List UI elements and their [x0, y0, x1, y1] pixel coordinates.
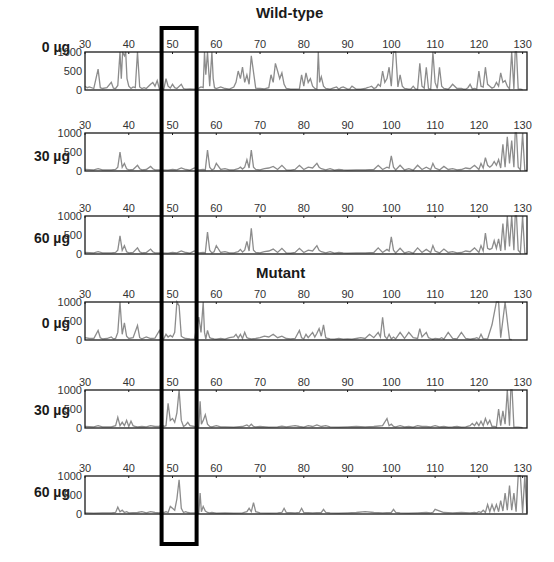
y-tick-label: 1000 — [58, 470, 82, 482]
x-tick-label: 100 — [382, 119, 400, 131]
trace-panel-3: 3040506070809010011012013005001000 — [58, 288, 532, 346]
x-tick-label: 120 — [470, 288, 488, 300]
x-tick-label: 110 — [426, 119, 444, 131]
y-tick-label: 1000 — [58, 46, 82, 58]
trace-panel-5: 3040506070809010011012013005001000 — [58, 462, 532, 520]
x-tick-label: 80 — [298, 202, 310, 214]
x-tick-label: 90 — [341, 38, 353, 50]
trace-line — [85, 302, 512, 340]
x-tick-label: 40 — [123, 462, 135, 474]
x-tick-label: 60 — [210, 376, 222, 388]
x-tick-label: 80 — [298, 288, 310, 300]
x-tick-label: 120 — [470, 119, 488, 131]
plot-frame — [85, 390, 527, 428]
x-tick-label: 50 — [166, 38, 178, 50]
x-tick-label: 80 — [298, 119, 310, 131]
x-tick-label: 70 — [254, 38, 266, 50]
x-tick-label: 90 — [341, 119, 353, 131]
x-tick-label: 80 — [298, 38, 310, 50]
x-tick-label: 130 — [513, 288, 531, 300]
x-tick-label: 80 — [298, 462, 310, 474]
y-tick-label: 0 — [76, 334, 82, 346]
x-tick-label: 70 — [254, 119, 266, 131]
y-tick-label: 0 — [76, 422, 82, 434]
trace-line — [85, 390, 523, 428]
plot-frame — [85, 476, 527, 514]
x-tick-label: 130 — [513, 462, 531, 474]
trace-panel-2: 3040506070809010011012013005001000 — [58, 202, 532, 260]
x-tick-label: 60 — [210, 202, 222, 214]
trace-panel-1: 3040506070809010011012013005001000 — [58, 119, 532, 177]
x-tick-label: 110 — [426, 462, 444, 474]
x-tick-label: 120 — [470, 38, 488, 50]
plots-canvas: 3040506070809010011012013005001000304050… — [0, 0, 554, 562]
plot-frame — [85, 133, 527, 171]
x-tick-label: 40 — [123, 376, 135, 388]
x-tick-label: 50 — [166, 119, 178, 131]
x-tick-label: 110 — [426, 202, 444, 214]
x-tick-label: 130 — [513, 376, 531, 388]
y-tick-label: 0 — [76, 84, 82, 96]
x-tick-label: 100 — [382, 288, 400, 300]
x-tick-label: 90 — [341, 288, 353, 300]
y-tick-label: 1000 — [58, 296, 82, 308]
trace-line — [85, 52, 523, 90]
y-tick-label: 1000 — [58, 210, 82, 222]
y-tick-label: 500 — [64, 403, 82, 415]
x-tick-label: 100 — [382, 462, 400, 474]
y-tick-label: 500 — [64, 315, 82, 327]
x-tick-label: 120 — [470, 462, 488, 474]
y-tick-label: 500 — [64, 146, 82, 158]
trace-panel-4: 3040506070809010011012013005001000 — [58, 376, 532, 434]
plot-frame — [85, 216, 527, 254]
x-tick-label: 80 — [298, 376, 310, 388]
x-tick-label: 90 — [341, 462, 353, 474]
x-tick-label: 130 — [513, 202, 531, 214]
x-tick-label: 60 — [210, 38, 222, 50]
x-tick-label: 70 — [254, 376, 266, 388]
x-tick-label: 90 — [341, 202, 353, 214]
x-tick-label: 50 — [166, 462, 178, 474]
trace-line — [85, 133, 527, 171]
x-tick-label: 110 — [426, 38, 444, 50]
x-tick-label: 120 — [470, 202, 488, 214]
figure: Wild-type Mutant 0 µg 30 µg 60 µg 0 µg 3… — [0, 0, 554, 562]
x-tick-label: 90 — [341, 376, 353, 388]
x-tick-label: 100 — [382, 38, 400, 50]
x-tick-label: 60 — [210, 288, 222, 300]
y-tick-label: 0 — [76, 508, 82, 520]
trace-line — [85, 476, 527, 513]
y-tick-label: 0 — [76, 165, 82, 177]
x-tick-label: 40 — [123, 38, 135, 50]
x-tick-label: 120 — [470, 376, 488, 388]
x-tick-label: 110 — [426, 288, 444, 300]
y-tick-label: 500 — [64, 65, 82, 77]
x-tick-label: 40 — [123, 119, 135, 131]
x-tick-label: 130 — [513, 38, 531, 50]
y-tick-label: 0 — [76, 248, 82, 260]
x-tick-label: 50 — [166, 376, 178, 388]
x-tick-label: 50 — [166, 202, 178, 214]
x-tick-label: 130 — [513, 119, 531, 131]
y-tick-label: 1000 — [58, 384, 82, 396]
x-tick-label: 50 — [166, 288, 178, 300]
y-tick-label: 500 — [64, 229, 82, 241]
x-tick-label: 60 — [210, 462, 222, 474]
y-tick-label: 500 — [64, 489, 82, 501]
x-tick-label: 70 — [254, 202, 266, 214]
x-tick-label: 100 — [382, 376, 400, 388]
x-tick-label: 70 — [254, 288, 266, 300]
trace-line — [85, 216, 527, 254]
x-tick-label: 110 — [426, 376, 444, 388]
x-tick-label: 70 — [254, 462, 266, 474]
x-tick-label: 40 — [123, 202, 135, 214]
trace-panel-0: 3040506070809010011012013005001000 — [58, 38, 532, 96]
y-tick-label: 1000 — [58, 127, 82, 139]
x-tick-label: 40 — [123, 288, 135, 300]
x-tick-label: 60 — [210, 119, 222, 131]
x-tick-label: 100 — [382, 202, 400, 214]
